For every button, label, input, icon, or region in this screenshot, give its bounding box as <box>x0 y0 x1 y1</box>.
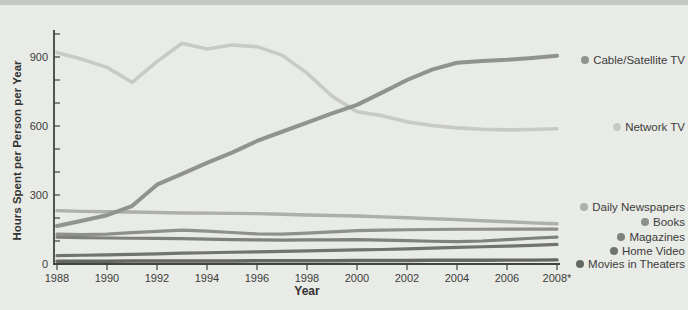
legend-dot-icon <box>641 218 649 226</box>
x-tick-label: 2008* <box>543 272 572 284</box>
legend-dot-icon <box>576 260 584 268</box>
legend-dot-icon <box>580 203 588 211</box>
y-tick-label: 900 <box>30 51 48 63</box>
x-tick-label: 2006 <box>495 272 519 284</box>
legend-item-home-video: Home Video <box>610 245 685 257</box>
x-tick-label: 1996 <box>245 272 269 284</box>
y-tick-label: 300 <box>30 189 48 201</box>
legend-item-magazines: Magazines <box>617 231 685 243</box>
series-line-daily-newspapers <box>57 211 557 224</box>
x-axis-title: Year <box>0 284 614 298</box>
legend-label: Books <box>653 216 685 228</box>
series-line-home-video <box>57 244 557 255</box>
legend-item-movies-in-theaters: Movies in Theaters <box>576 258 685 270</box>
series-line-movies-in-theaters <box>57 260 557 261</box>
legend-dot-icon <box>613 123 621 131</box>
legend-item-network-tv: Network TV <box>613 121 685 133</box>
legend-label: Network TV <box>625 121 685 133</box>
y-tick-label: 0 <box>42 258 48 270</box>
x-tick-label: 1990 <box>95 272 119 284</box>
series-line-books <box>57 229 557 235</box>
legend-item-books: Books <box>641 216 685 228</box>
legend-dot-icon <box>617 233 625 241</box>
legend-item-daily-newspapers: Daily Newspapers <box>580 201 685 213</box>
y-axis-title: Hours Spent per Person per Year <box>11 53 26 249</box>
legend-dot-icon <box>581 56 589 64</box>
media-hours-line-chart: 0300600900198819901992199419961998200020… <box>0 0 688 310</box>
legend-dot-icon <box>610 247 618 255</box>
series-line-magazines <box>57 237 557 242</box>
y-tick-label: 600 <box>30 120 48 132</box>
x-tick-label: 2000 <box>345 272 369 284</box>
x-tick-label: 1988 <box>45 272 69 284</box>
series-line-network-tv <box>57 43 557 130</box>
legend-label: Movies in Theaters <box>588 258 685 270</box>
legend-label: Daily Newspapers <box>592 201 685 213</box>
legend-label: Magazines <box>629 231 685 243</box>
x-tick-label: 1998 <box>295 272 319 284</box>
x-tick-label: 1994 <box>195 272 219 284</box>
legend-label: Cable/Satellite TV <box>593 54 685 66</box>
legend-item-cable-satellite-tv: Cable/Satellite TV <box>581 54 685 66</box>
legend-label: Home Video <box>622 245 685 257</box>
x-tick-label: 2002 <box>395 272 419 284</box>
x-tick-label: 1992 <box>145 272 169 284</box>
x-tick-label: 2004 <box>445 272 469 284</box>
